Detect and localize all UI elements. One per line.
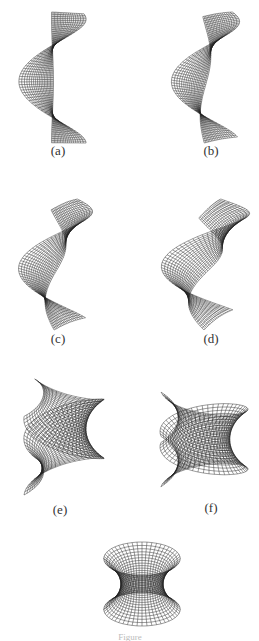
catenoid-mesh-g — [95, 540, 189, 628]
figure-caption-clipped: Figure — [100, 632, 160, 641]
panel-f-label: (f) — [191, 500, 231, 516]
surface-mesh-b — [158, 10, 253, 145]
panel-f-figure — [158, 387, 250, 492]
panel-a-label: (a) — [38, 143, 78, 159]
panel-a-figure — [5, 10, 100, 145]
surface-mesh-c — [8, 197, 103, 332]
helicoid-mesh-a — [5, 10, 100, 145]
panel-g-figure — [95, 540, 189, 628]
panel-e-figure — [18, 377, 110, 497]
panel-c-figure — [8, 197, 103, 332]
surface-mesh-d — [158, 197, 253, 332]
panel-b-figure — [158, 10, 253, 145]
panel-e-label: (e) — [40, 502, 80, 518]
surface-mesh-f — [158, 387, 250, 492]
panel-b-label: (b) — [191, 143, 231, 159]
panel-c-label: (c) — [38, 331, 78, 347]
surface-mesh-e — [18, 377, 110, 497]
panel-d-label: (d) — [191, 331, 231, 347]
panel-d-figure — [158, 197, 253, 332]
